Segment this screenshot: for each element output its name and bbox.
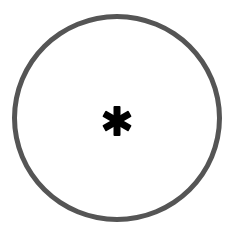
asterisk-icon bbox=[100, 104, 134, 138]
icon-canvas bbox=[0, 0, 235, 235]
asterisk-svg bbox=[100, 104, 134, 138]
asterisk-arms bbox=[102, 106, 131, 136]
